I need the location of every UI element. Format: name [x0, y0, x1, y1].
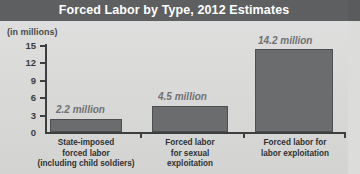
- category-label-1: State-imposed forced labor (including ch…: [33, 138, 139, 170]
- y-tick-mark-3: [40, 115, 46, 117]
- category-label-3: Forced labor for labor exploitation: [243, 138, 347, 159]
- y-tick-label-6: 6: [14, 93, 36, 102]
- y-tick-label-3: 3: [14, 111, 36, 120]
- category-label-2: Forced labor for sexual exploitation: [143, 138, 237, 170]
- category-label-2-line-1: Forced labor: [143, 138, 237, 149]
- category-label-3-line-2: labor exploitation: [243, 149, 347, 160]
- category-label-2-line-2: for sexual: [143, 149, 237, 160]
- category-label-2-line-3: exploitation: [143, 159, 237, 170]
- y-axis-line: [45, 44, 47, 134]
- x-tick-mark-1: [140, 134, 142, 138]
- y-tick-mark-12: [40, 62, 46, 64]
- x-axis-line: [45, 132, 346, 134]
- y-tick-mark-9: [40, 80, 46, 82]
- y-tick-mark-6: [40, 97, 46, 99]
- bar-forced-labor-labor-exploitation: [255, 49, 333, 132]
- chart-figure: Forced Labor by Type, 2012 Estimates (in…: [0, 0, 360, 174]
- category-label-3-line-1: Forced labor for: [243, 138, 347, 149]
- category-label-1-line-2: forced labor: [33, 149, 139, 160]
- y-tick-label-12: 12: [14, 58, 36, 67]
- y-tick-label-15: 15: [14, 41, 36, 50]
- bar-value-label-1: 2.2 million: [56, 104, 105, 115]
- chart-title: Forced Labor by Type, 2012 Estimates: [0, 0, 348, 21]
- y-tick-label-9: 9: [14, 76, 36, 85]
- category-label-1-line-3: (including child soldiers): [33, 159, 139, 170]
- bar-state-imposed-forced-labor: [50, 119, 122, 132]
- y-tick-label-0: 0: [14, 128, 36, 137]
- y-axis-units-label: (in millions): [7, 27, 58, 37]
- bar-value-label-3: 14.2 million: [258, 35, 312, 46]
- bar-value-label-2: 4.5 million: [158, 91, 207, 102]
- chart-title-bar: Forced Labor by Type, 2012 Estimates: [0, 0, 360, 21]
- category-label-1-line-1: State-imposed: [33, 138, 139, 149]
- bar-forced-labor-sexual-exploitation: [152, 106, 228, 132]
- y-tick-mark-15: [40, 45, 46, 47]
